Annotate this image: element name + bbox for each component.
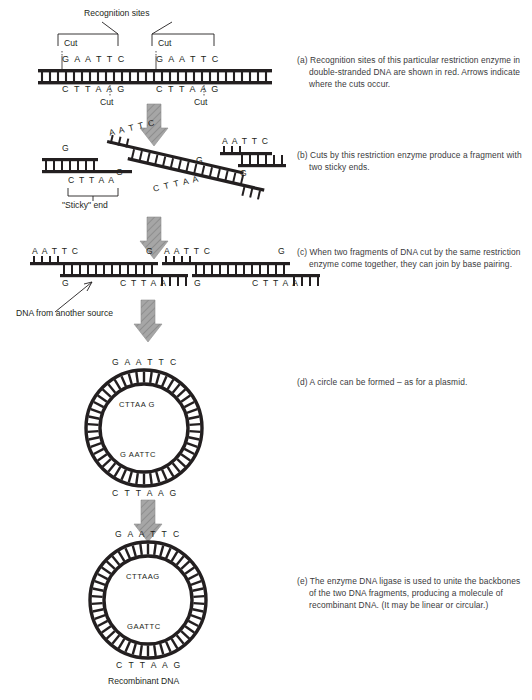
panel-e-top-inner: CTTAAG xyxy=(126,572,160,581)
caption-a-label: (a) xyxy=(297,55,308,65)
dna-duplex-a xyxy=(38,69,272,84)
panel-b-left-top: G xyxy=(62,143,70,153)
caption-b-label: (b) xyxy=(297,150,308,160)
caption-b-text: Cuts by this restriction enzyme produce … xyxy=(309,150,522,172)
panel-c-frag2-top: A A T T C xyxy=(164,246,211,256)
panel-c-frag1-bottom-right: C T T A A xyxy=(120,278,167,288)
panel-e-bottom-outer: C T T A A G xyxy=(116,660,182,670)
panel-d-bottom-outer: C T T A A G xyxy=(112,488,178,498)
panel-d-top-inner: CTTAA G xyxy=(119,400,155,409)
panel-b-right-bottom: G xyxy=(240,168,248,178)
site2-top-sequence: G A A T T C xyxy=(156,54,220,64)
caption-c-text: When two fragments of DNA cut by the sam… xyxy=(309,247,521,269)
caption-d-text: A circle can be formed – as for a plasmi… xyxy=(310,377,468,387)
dna-another-source-label: DNA from another source xyxy=(16,308,113,318)
caption-b: (b) Cuts by this restriction enzyme prod… xyxy=(297,150,529,174)
panel-c-frag1-top-right: G xyxy=(146,246,154,256)
flow-arrow-c-d xyxy=(134,300,162,342)
cut-label-bottom-right: Cut xyxy=(194,97,207,107)
caption-d: (d) A circle can be formed – as for a pl… xyxy=(297,377,529,389)
caption-a: (a) Recognition sites of this particular… xyxy=(297,55,529,91)
caption-a-text: Recognition sites of this particular res… xyxy=(309,55,520,89)
panel-c-frag2-bottom-right: C T T A A xyxy=(252,278,299,288)
caption-c-label: (c) xyxy=(297,247,307,257)
caption-e: (e) The enzyme DNA ligase is used to uni… xyxy=(297,576,529,612)
recognition-sites-label: Recognition sites xyxy=(84,8,149,18)
cut-label-top-right: Cut xyxy=(158,38,171,48)
panel-b-left-bottom: C T T A A xyxy=(68,175,115,185)
caption-d-label: (d) xyxy=(297,377,308,387)
cut-label-bottom-left: Cut xyxy=(100,97,113,107)
panel-e-top-outer: G A A T T C xyxy=(115,529,181,539)
panel-b-right-top: A A T T C xyxy=(222,136,269,146)
site2-bottom-sequence: C T T A A G xyxy=(156,84,220,94)
panel-b-mid-right: G xyxy=(196,155,204,165)
site1-top-sequence: G A A T T C xyxy=(62,54,126,64)
panel-d-circle xyxy=(86,370,202,486)
caption-e-label: (e) xyxy=(297,576,308,586)
panel-e-bottom-inner: GAATTC xyxy=(127,622,161,631)
recognition-bracket xyxy=(58,22,214,46)
panel-d-top-outer: G A A T T C xyxy=(112,357,178,367)
panel-e-circle xyxy=(90,542,206,658)
panel-c-frag1-top: A A T T C xyxy=(32,246,79,256)
caption-c: (c) When two fragments of DNA cut by the… xyxy=(297,247,529,271)
caption-e-text: The enzyme DNA ligase is used to unite t… xyxy=(309,576,520,610)
panel-c-frag2-bottom-left: G xyxy=(194,278,202,288)
recombinant-dna-label: Recombinant DNA xyxy=(108,676,179,686)
panel-c-frag1-bottom-left: G xyxy=(62,278,70,288)
cut-label-top-left: Cut xyxy=(64,38,77,48)
panel-c-frag2-top-right: G xyxy=(278,246,286,256)
site1-bottom-sequence: C T T A A G xyxy=(62,84,126,94)
panel-d-bottom-inner: G AATTC xyxy=(120,450,156,459)
sticky-end-label: "Sticky" end xyxy=(62,200,108,210)
panel-b-mid-bottom-left: G xyxy=(116,167,124,177)
